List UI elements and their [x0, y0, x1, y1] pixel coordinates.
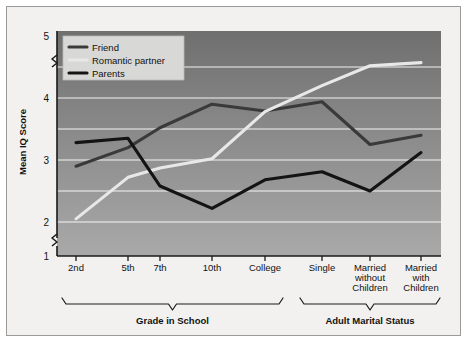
legend-label: Parents	[92, 68, 125, 79]
bracket-grade-in-school: Grade in School	[62, 298, 283, 326]
legend-label: Romantic partner	[92, 55, 165, 66]
y-tick-label: 5	[43, 31, 49, 42]
x-tick-label: 10th	[203, 262, 222, 273]
y-tick-label: 4	[43, 93, 49, 104]
x-tick-label: 5th	[121, 262, 134, 273]
x-tick-label: Children	[352, 282, 387, 293]
legend-label: Friend	[92, 42, 119, 53]
y-tick-label: 3	[43, 155, 49, 166]
x-tick-label: 7th	[153, 262, 166, 273]
y-axis-title: Mean IQ Score	[17, 109, 28, 175]
bracket-path	[62, 298, 283, 310]
x-tick-label: 2nd	[68, 262, 84, 273]
bracket-adult-marital-status: Adult Marital Status	[300, 298, 440, 326]
x-tick-label: Children	[403, 282, 438, 293]
bracket-path	[300, 298, 440, 310]
y-tick-label: 1	[43, 251, 49, 262]
y-tick-label: 2	[43, 217, 49, 228]
chart-screenshot: 12345Mean IQ Score2nd5th7th10thCollegeSi…	[0, 0, 469, 344]
bracket-label: Grade in School	[136, 315, 209, 326]
x-tick-label: Single	[309, 262, 335, 273]
y-tick-labels: 12345	[43, 31, 49, 262]
x-tick-label: College	[249, 262, 281, 273]
legend: FriendRomantic partnerParents	[63, 36, 184, 80]
bracket-label: Adult Marital Status	[325, 315, 414, 326]
chart-canvas: 12345Mean IQ Score2nd5th7th10thCollegeSi…	[0, 0, 469, 344]
x-tick-labels: 2nd5th7th10thCollegeSingleMarriedwithout…	[68, 262, 439, 293]
